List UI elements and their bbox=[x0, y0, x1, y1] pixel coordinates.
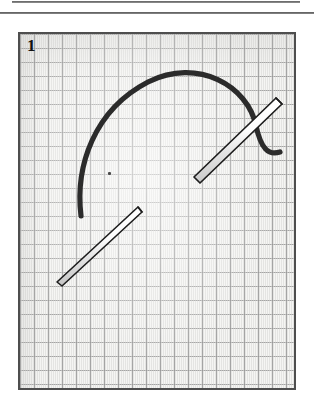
needle-lower-icon bbox=[57, 207, 142, 286]
needle-upper-icon bbox=[194, 98, 282, 183]
lower-horizontal-rule bbox=[0, 12, 314, 14]
figure-artwork bbox=[20, 34, 294, 388]
thread-curve-icon bbox=[80, 73, 280, 216]
upper-horizontal-rule bbox=[12, 1, 300, 3]
ink-speck-mark bbox=[108, 172, 111, 175]
figure-panel: 1 bbox=[18, 32, 296, 390]
